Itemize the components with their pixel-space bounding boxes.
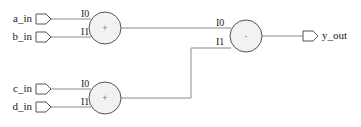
input-port-b-in[interactable]: b_in bbox=[12, 30, 51, 42]
port-label-d-in: d_in bbox=[12, 100, 32, 112]
adder-top-pin-i1: I1 bbox=[81, 26, 89, 37]
input-port-d-in[interactable]: d_in bbox=[12, 100, 51, 112]
subtractor-pin-i1: I1 bbox=[216, 36, 224, 47]
adder-bottom-pin-i1: I1 bbox=[81, 96, 89, 107]
wire-add-bottom-out[interactable] bbox=[121, 48, 231, 98]
port-label-b-in: b_in bbox=[12, 30, 32, 42]
input-port-a-in[interactable]: a_in bbox=[13, 12, 51, 24]
adder-top[interactable]: + I0 I1 bbox=[81, 8, 121, 44]
input-port-c-in[interactable]: c_in bbox=[13, 82, 51, 94]
subtractor-pin-i0: I0 bbox=[216, 17, 224, 28]
adder-bottom-symbol: + bbox=[102, 93, 107, 103]
output-port-y-out[interactable]: y_out bbox=[303, 29, 347, 41]
subtractor[interactable]: - I0 I1 bbox=[216, 17, 262, 52]
adder-top-pin-i0: I0 bbox=[81, 8, 89, 19]
adder-bottom[interactable]: + I0 I1 bbox=[81, 78, 121, 114]
port-label-y-out: y_out bbox=[322, 29, 347, 41]
port-label-c-in: c_in bbox=[13, 82, 32, 94]
port-label-a-in: a_in bbox=[13, 12, 32, 24]
schematic-canvas: a_in b_in c_in d_in + I0 I1 + I0 I1 - I0… bbox=[0, 0, 361, 127]
adder-top-symbol: + bbox=[102, 23, 107, 33]
adder-bottom-pin-i0: I0 bbox=[81, 78, 89, 89]
subtractor-symbol: - bbox=[245, 31, 248, 41]
